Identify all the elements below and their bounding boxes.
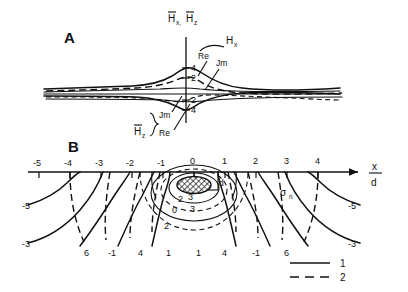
panel-b-ticklabel-8: 3	[284, 156, 289, 166]
panel-a-ticklabel-lower-0: 2	[191, 95, 196, 105]
panel-b-contourlabel-bottom-6: -1	[252, 248, 260, 258]
panel-b-x-axis-label: x d	[369, 161, 382, 188]
panel-b-ticklabel-1: -4	[64, 158, 72, 168]
panel-b-contourlabel-bottom-1: -1	[108, 248, 116, 258]
panel-b-contourlabel-center-3: 3	[190, 204, 195, 214]
panel-b-contourlabel-left-0: -5	[22, 201, 30, 211]
leader-jm-lower	[172, 96, 182, 112]
contour-dashed-right-4	[248, 172, 258, 238]
panel-b-ticklabel-9: 4	[315, 156, 320, 166]
panel-b: B x d -5 -4 -3 -2 -1 0 1	[22, 138, 382, 283]
panel-b-contourlabel-right-0: -5	[348, 201, 356, 211]
panel-a-label-re-upper: Re	[198, 51, 209, 61]
panel-a-y-axis-label-h2: H	[186, 13, 193, 24]
panel-b-ticklabel-4: -1	[157, 158, 165, 168]
panel-b-legend: 1 2	[290, 258, 346, 283]
panel-b-sigma-sub: n	[289, 193, 293, 200]
brace-hz-icon	[150, 113, 158, 136]
figure-container: A H x, H z 4 2 2 4	[0, 0, 408, 292]
panel-b-contourlabel-right-1: -3	[348, 239, 356, 249]
panel-b-contourlabel-bottom-0: 6	[84, 248, 89, 258]
panel-a-label-re-lower: Re	[159, 128, 170, 138]
panel-b-contourlabel-center-1: 3	[188, 192, 193, 202]
panel-b-ticklabel-6: 1	[222, 156, 227, 166]
legend-label-0: 1	[340, 258, 346, 269]
panel-b-contourlabel-bottom-5: 4	[222, 248, 227, 258]
panel-a-annotation-hz: H z Jm Re	[134, 96, 190, 139]
contour-solid-left-1b	[152, 172, 170, 246]
panel-a-label-hz-sub: z	[142, 132, 145, 139]
panel-b-contourlabel-bottom-2: 4	[138, 248, 143, 258]
panel-b-contourlabel-center-0: 2	[178, 194, 183, 204]
panel-b-contourlabel-center-4: 2	[164, 221, 169, 231]
panel-b-x-axis-label-den: d	[371, 177, 377, 188]
panel-b-contourlabel-center-2: 0	[172, 205, 177, 215]
panel-a-y-axis-label-sub1: x,	[176, 19, 181, 26]
panel-a-label-jm-upper: Jm	[216, 58, 227, 68]
panel-b-letter: B	[68, 138, 79, 155]
panel-a-y-axis-label-sub2: z	[194, 19, 197, 26]
panel-a-letter: A	[64, 29, 75, 46]
legend-label-1: 2	[340, 272, 346, 283]
panel-a-label-hx-sub: x	[234, 41, 238, 48]
figure-svg: A H x, H z 4 2 2 4	[0, 0, 408, 292]
panel-b-ticklabel-2: -3	[95, 158, 103, 168]
panel-b-ticklabel-7: 2	[253, 156, 258, 166]
contour-solid-left-3	[28, 172, 103, 243]
panel-a-label-hx: H	[226, 35, 233, 46]
panel-a-label-jm-lower: Jm	[159, 110, 170, 120]
panel-a-label-hz: H	[134, 126, 141, 137]
panel-b-contourlabel-bottom-3: 1	[166, 248, 171, 258]
panel-b-x-axis-label-num: x	[372, 161, 377, 172]
panel-b-contourlabel-bottom-7: 6	[284, 248, 289, 258]
panel-b-contourlabel-bottom-4: 1	[196, 248, 201, 258]
leader-re-lower	[174, 104, 190, 130]
panel-a-y-axis-label: H x, H z	[168, 12, 197, 26]
panel-a-y-axis-label-h1: H	[168, 13, 175, 24]
panel-b-ticklabel-3: -2	[126, 158, 134, 168]
panel-b-ticklabel-0: -5	[33, 158, 41, 168]
panel-b-contourlabel-left-1: -3	[22, 239, 30, 249]
contour-solid-right-1b	[218, 172, 236, 246]
conductive-body-hatch-overlay	[177, 177, 211, 194]
contour-dashed-left-4	[130, 172, 140, 238]
panel-a: A H x, H z 4 2 2 4	[44, 12, 342, 139]
